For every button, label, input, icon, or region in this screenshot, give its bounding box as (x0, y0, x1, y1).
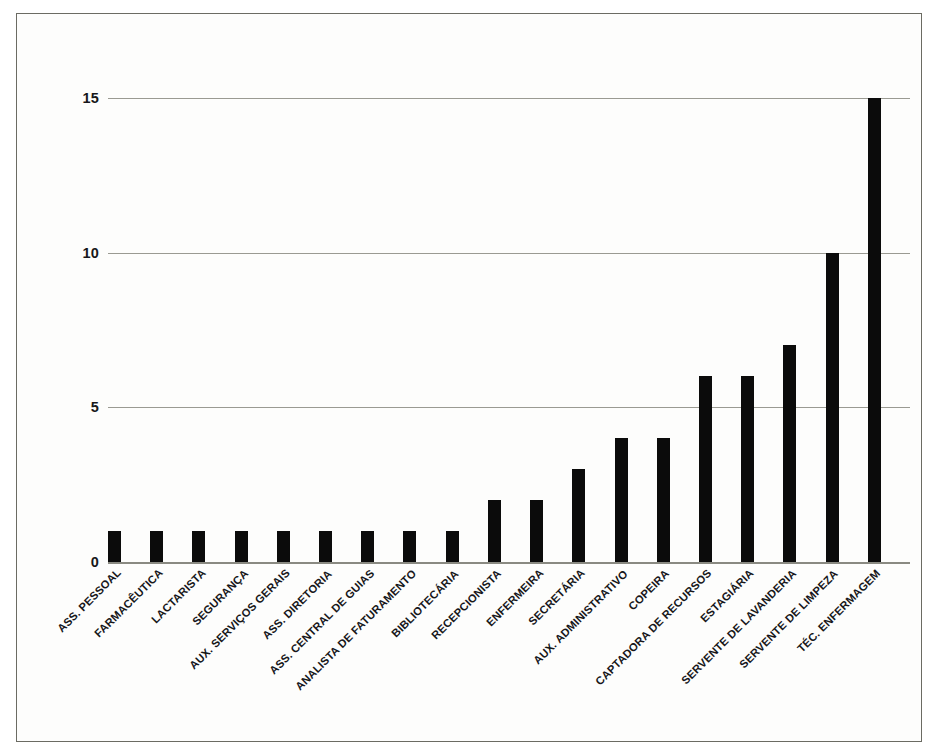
bar (615, 438, 628, 562)
bar (826, 253, 839, 562)
chart-figure-frame: 051015 ASS. PESSOALFARMACÊUTICALACTARIST… (16, 13, 922, 742)
bar (403, 531, 416, 562)
bar (192, 531, 205, 562)
bar (150, 531, 163, 562)
bars-group (108, 98, 910, 562)
bar (657, 438, 670, 562)
x-axis-tick-label: TÉC. ENFERMAGEM (795, 567, 882, 654)
bar (488, 500, 501, 562)
bar (572, 469, 585, 562)
bar (361, 531, 374, 562)
x-axis-tick-label-wrap: TÉC. ENFERMAGEM (795, 567, 882, 654)
bar (699, 376, 712, 562)
y-axis-tick-label: 15 (82, 90, 99, 106)
x-axis-labels-group: ASS. PESSOALFARMACÊUTICALACTARISTASEGURA… (108, 563, 910, 738)
bar (277, 531, 290, 562)
x-axis-tick-label: RECEPCIONISTA (429, 567, 503, 641)
bar (530, 500, 543, 562)
plot-area: 051015 (108, 98, 910, 562)
bar (108, 531, 121, 562)
bar (783, 345, 796, 562)
bar (319, 531, 332, 562)
y-axis-tick-label: 5 (91, 399, 99, 415)
bar (235, 531, 248, 562)
x-axis-tick-label-wrap: RECEPCIONISTA (429, 567, 503, 641)
bar (446, 531, 459, 562)
y-axis-tick-label: 10 (82, 244, 99, 260)
bar (741, 376, 754, 562)
y-axis-tick-label: 0 (91, 554, 99, 570)
bar (868, 98, 881, 562)
